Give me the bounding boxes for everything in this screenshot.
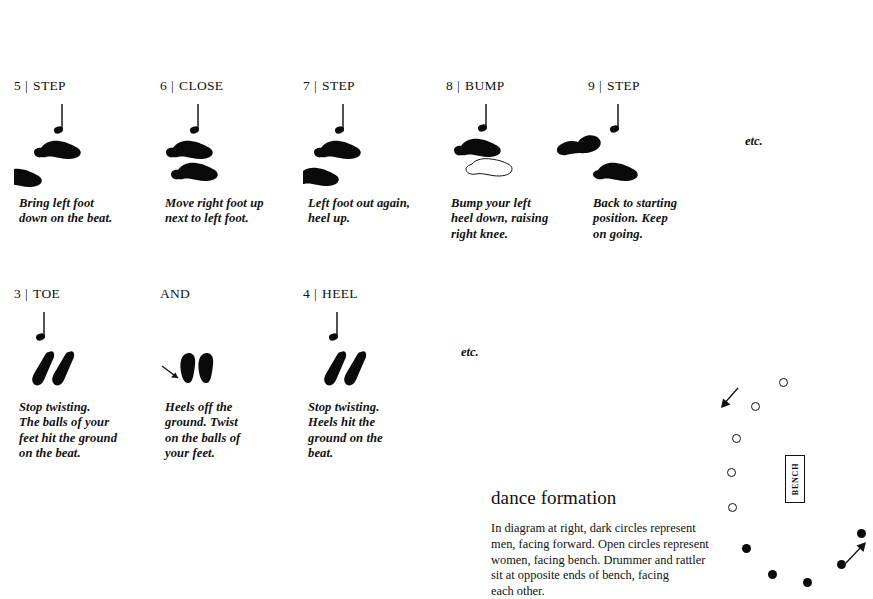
step-caption-8: Bump your left heel down, raising right …: [451, 196, 548, 242]
step-caption-and: Heels off the ground. Twist on the balls…: [165, 400, 240, 461]
step-panel-6-close: 6|CLOSE Move right foot up next to left …: [160, 78, 310, 94]
dance-formation-title: dance formation: [491, 487, 616, 509]
step-name: STEP: [33, 78, 66, 93]
step-number: 3: [14, 286, 21, 301]
step-caption-3: Stop twisting. The balls of your feet hi…: [19, 400, 117, 461]
step-separator: |: [310, 286, 322, 302]
open-circle-woman: [751, 402, 760, 411]
quarter-note-icon: [609, 104, 620, 134]
step-name: STEP: [322, 78, 355, 93]
dance-instruction-sheet: 5|STEP Bring left foot down on the beat.…: [0, 0, 873, 599]
step-panel-4-heel: 4|HEEL Stop twisting. Heels hit the grou…: [303, 286, 453, 302]
step-separator: |: [453, 78, 465, 94]
step-header: 4|HEEL: [303, 286, 453, 302]
step-caption-4: Stop twisting. Heels hit the ground on t…: [308, 400, 383, 461]
step-header: AND: [160, 286, 310, 302]
step-number: 6: [160, 78, 167, 93]
step-number: 4: [303, 286, 310, 301]
step-header: 6|CLOSE: [160, 78, 310, 94]
step-name: CLOSE: [179, 78, 223, 93]
step-separator: |: [167, 78, 179, 94]
step-artwork-4: [303, 308, 413, 393]
arrow-up-right-icon: [842, 538, 870, 566]
step-artwork-7: [303, 100, 413, 190]
quarter-note-icon: [189, 104, 200, 135]
step-panel-9-step: 9|STEP Back to starting position. Keep o…: [588, 78, 738, 94]
footprint-right-upright: [198, 353, 213, 383]
step-caption-6: Move right foot up next to left foot.: [165, 196, 264, 227]
step-panel-7-step: 7|STEP Left foot out again, heel up.: [303, 78, 453, 94]
footprint-right-filled: [593, 163, 638, 181]
open-circle-woman: [732, 434, 741, 443]
step-number: 8: [446, 78, 453, 93]
step-number: 5: [14, 78, 21, 93]
footprint-left-outline: [466, 159, 512, 176]
step-separator: |: [310, 78, 322, 94]
step-name: HEEL: [322, 286, 358, 301]
quarter-note-icon: [53, 104, 64, 135]
footprint-left-tilted: [32, 351, 54, 385]
step-header: 9|STEP: [588, 78, 738, 94]
step-panel-5-step: 5|STEP Bring left foot down on the beat.: [14, 78, 164, 94]
dark-circle-man: [742, 544, 751, 553]
quarter-note-icon: [477, 104, 488, 133]
step-number: 7: [303, 78, 310, 93]
quarter-note-icon: [35, 312, 46, 342]
bench-rectangle: BENCH: [785, 455, 805, 503]
step-header: 5|STEP: [14, 78, 164, 94]
etc-marker-row-2: etc.: [461, 345, 479, 360]
footprint-right-tilted: [344, 351, 366, 385]
step-caption-5: Bring left foot down on the beat.: [19, 196, 112, 227]
step-artwork-6: [160, 100, 270, 190]
footprint-left-tilted: [324, 351, 346, 385]
step-separator: |: [21, 78, 33, 94]
step-panel-8-bump: 8|BUMP Bump your left heel down, raising…: [446, 78, 596, 94]
step-caption-9: Back to starting position. Keep on going…: [593, 196, 677, 242]
footprint-right-filled: [314, 141, 361, 159]
step-separator: |: [21, 286, 33, 302]
step-panel-3-toe: 3|TOE Stop twisting. The balls of your f…: [14, 286, 164, 302]
step-header: 3|TOE: [14, 286, 164, 302]
step-artwork-3: [14, 308, 124, 393]
footprint-right-tilted: [52, 351, 74, 385]
footprint-left-upright: [180, 353, 195, 383]
dark-circle-man: [857, 529, 866, 538]
quarter-note-icon: [328, 312, 339, 342]
step-caption-7: Left foot out again, heel up.: [308, 196, 410, 227]
footprint-right-filled: [166, 141, 213, 159]
step-separator: |: [595, 78, 607, 94]
step-artwork-9: [540, 100, 660, 195]
arrow-down-left-icon: [716, 386, 742, 412]
footprint-left-filled: [171, 163, 218, 181]
footprint-left-filled: [557, 135, 601, 155]
step-panel-and: AND Heels off the ground. Twist on the b…: [160, 286, 310, 302]
step-header: 8|BUMP: [446, 78, 596, 94]
etc-marker-row-1: etc.: [745, 134, 763, 149]
step-name: STEP: [607, 78, 640, 93]
dark-circle-man: [803, 578, 812, 587]
step-name: AND: [160, 286, 190, 301]
step-artwork-5: [14, 100, 124, 190]
dark-circle-man: [768, 570, 777, 579]
dance-formation-diagram: BENCH: [700, 360, 873, 599]
step-artwork-and: [160, 308, 270, 393]
step-name: TOE: [33, 286, 60, 301]
arrow-down-right-icon: [162, 366, 178, 378]
dance-formation-description: In diagram at right, dark circles repres…: [491, 521, 716, 599]
open-circle-woman: [727, 468, 736, 477]
footprint-left-filled: [303, 168, 339, 186]
open-circle-woman: [728, 503, 737, 512]
step-header: 7|STEP: [303, 78, 453, 94]
footprint-right-filled: [454, 139, 501, 157]
step-name: BUMP: [465, 78, 504, 93]
step-number: 9: [588, 78, 595, 93]
quarter-note-icon: [334, 104, 345, 135]
open-circle-woman: [779, 378, 788, 387]
bench-label: BENCH: [791, 463, 800, 495]
footprint-right-filled: [34, 141, 81, 159]
footprint-left-filled: [14, 169, 42, 187]
